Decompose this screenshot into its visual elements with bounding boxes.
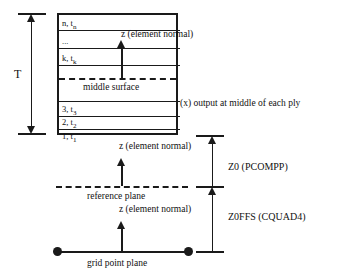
ply-label-k-sub: k — [73, 58, 77, 66]
ply-label-k: k, tk — [62, 53, 76, 66]
ply-label-2-text: 2, t — [62, 117, 73, 127]
z0-arrowhead-icon — [208, 136, 216, 144]
ply-label-3-text: 3, t — [62, 104, 73, 114]
offset-tick-bottom — [196, 251, 224, 253]
element-normal-shaft-upper — [121, 165, 123, 186]
ply-label-n: n, tn — [62, 18, 76, 31]
ply-label-1: 1, t1 — [62, 131, 76, 144]
ply-divider-k — [59, 65, 180, 66]
element-normal-shaft-lower — [121, 228, 123, 252]
element-normal-arrowhead-upper-icon — [117, 158, 125, 166]
ply-label-k-text: k, t — [62, 53, 73, 63]
element-normal-label-lower: z (element normal) — [119, 205, 191, 215]
middle-surface-label: middle surface — [83, 83, 139, 93]
ply-divider-3 — [59, 116, 180, 117]
thickness-dimension-line — [31, 18, 32, 128]
grid-point-right-icon — [184, 247, 193, 256]
z0ffs-arrowhead-icon — [208, 187, 216, 195]
element-normal-label-top: z (element normal) — [121, 30, 193, 40]
z0-label: Z0 (PCOMPP) — [228, 162, 288, 172]
reference-plane-line — [56, 186, 188, 188]
ply-label-dots-text: ... — [62, 36, 68, 46]
middle-surface-line — [59, 78, 176, 80]
element-normal-shaft-top — [121, 47, 123, 79]
ply-label-1-sub: 1 — [73, 136, 77, 144]
element-normal-arrowhead-lower-icon — [117, 221, 125, 229]
ply-divider-3-top — [59, 101, 180, 102]
thickness-arrowhead-down-icon — [27, 126, 35, 134]
ply-label-dots: ... — [62, 36, 68, 49]
grid-point-plane-line — [57, 251, 192, 253]
ply-label-1-text: 1, t — [62, 131, 73, 141]
thickness-label: T — [14, 68, 21, 80]
ply-label-2: 2, t2 — [62, 117, 76, 130]
ply-label-2-sub: 2 — [73, 122, 77, 130]
ply-label-3-sub: 3 — [73, 109, 77, 117]
laminate-offset-diagram: T n, tn ... k, tk 3, t3 2, t2 1, t1 midd… — [0, 0, 345, 280]
ply-label-n-sub: n — [73, 23, 77, 31]
element-normal-arrowhead-top-icon — [117, 40, 125, 48]
element-normal-label-upper: z (element normal) — [119, 142, 191, 152]
thickness-arrowhead-up-icon — [27, 14, 35, 22]
z0ffs-label: Z0FFS (CQUAD4) — [228, 212, 306, 222]
ply-label-n-text: n, t — [62, 18, 73, 28]
z0-dimension-line — [212, 140, 213, 186]
z0ffs-dimension-line — [212, 191, 213, 251]
ply-output-label: (x) output at middle of each ply — [180, 99, 300, 109]
grid-point-left-icon — [53, 247, 62, 256]
ply-divider-2 — [59, 129, 180, 130]
ply-label-3: 3, t3 — [62, 104, 76, 117]
grid-point-plane-label: grid point plane — [87, 259, 147, 269]
ply-divider-dots — [59, 48, 180, 49]
reference-plane-label: reference plane — [87, 192, 145, 202]
